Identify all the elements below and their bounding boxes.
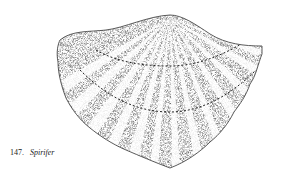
figure-caption: 147.Spirifer <box>10 148 54 157</box>
spirifer-shell-illustration <box>0 0 288 186</box>
figure-number: 147. <box>10 148 24 157</box>
shell-body <box>40 0 280 180</box>
figure-name: Spirifer <box>30 148 54 157</box>
